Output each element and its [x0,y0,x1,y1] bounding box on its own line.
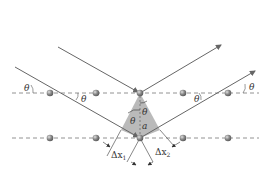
theta-arc-left-inner [76,93,78,100]
bragg-diffraction-diagram: θ θ θ θ θ θ a Δx1 Δx2 [0,0,271,173]
atom [47,135,54,142]
incident-ray-lower [15,67,138,137]
incident-ray-upper [58,47,138,92]
bottom-arrow-left [131,162,136,165]
wavefront-left-inner [127,138,140,162]
spacing-label: a [142,121,147,131]
atom [137,90,144,97]
atom [137,135,144,142]
theta-label-right-outer: θ [249,82,255,92]
theta-label-center-top: θ [142,107,148,117]
delta-x2-label: Δx2 [155,147,171,158]
atom [225,90,232,97]
atom [47,90,54,97]
theta-label-center-left: θ [130,116,136,126]
theta-label-right-inner: θ [194,94,200,104]
path-difference-region [121,93,160,138]
wavefront-right-inner [140,138,153,162]
delta-x2-arrow [172,142,180,147]
delta-x1-label: Δx1 [111,150,126,161]
theta-label-left-inner: θ [81,94,87,104]
reflected-ray-lower [140,71,255,138]
theta-arc-left-outer [31,85,33,93]
atom [225,135,232,142]
theta-arc-right-outer [243,84,245,93]
theta-label-left-outer: θ [24,83,30,93]
delta-x1-arrow [103,142,110,147]
reflected-ray-upper [140,45,221,93]
atom [93,90,100,97]
bottom-arrow-right [148,162,153,165]
atom [180,90,187,97]
atom [180,135,187,142]
atom [93,135,100,142]
